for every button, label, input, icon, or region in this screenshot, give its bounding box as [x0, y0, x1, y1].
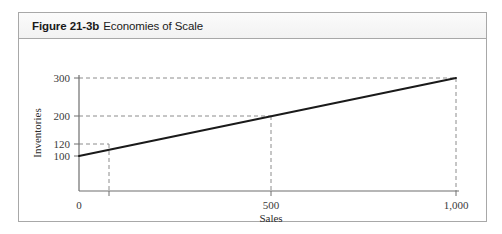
y-tick-label-300: 300: [54, 72, 71, 84]
figure-header: Figure 21-3b Economies of Scale: [19, 13, 486, 39]
y-tick-label-100: 100: [54, 150, 71, 162]
y-axis-title: Inventories: [31, 108, 43, 157]
x-tick-label-1000: 1,000: [444, 199, 469, 211]
y-tick-label-200: 200: [54, 110, 71, 122]
figure-title: Economies of Scale: [103, 20, 203, 32]
figure-label: Figure 21-3b: [32, 20, 99, 32]
x-axis-ticks: [109, 191, 456, 196]
x-tick-label-500: 500: [263, 199, 280, 211]
figure-frame: Figure 21-3b Economies of Scale: [18, 12, 487, 222]
guide-lines: [79, 78, 456, 191]
y-tick-label-120: 120: [54, 138, 71, 150]
economies-of-scale-line-chart: 300 200 120 100 0 500 1,000 Sales Invent…: [19, 39, 486, 222]
x-axis-title: Sales: [259, 212, 282, 222]
y-axis-ticks: [74, 78, 79, 156]
chart-plot-area: 300 200 120 100 0 500 1,000 Sales Invent…: [19, 39, 486, 222]
x-tick-label-0: 0: [76, 199, 82, 211]
data-line-inventories: [79, 78, 456, 156]
